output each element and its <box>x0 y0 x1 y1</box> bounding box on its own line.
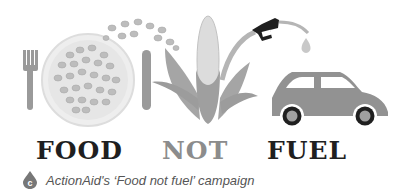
caption-badge-letter: c <box>27 178 32 188</box>
slogan-word-not: NOT <box>162 136 228 165</box>
fuel-nozzle-icon <box>222 18 308 80</box>
caption-text: ActionAid's ‘Food not fuel’ campaign <box>46 173 254 188</box>
fork-icon <box>23 50 38 110</box>
slogan-word-fuel: FUEL <box>267 136 347 165</box>
slogan-word-food: FOOD <box>36 136 123 165</box>
campaign-illustration <box>0 0 403 140</box>
slogan: FOOD NOT FUEL <box>0 136 403 166</box>
car-icon <box>272 72 388 128</box>
caption-badge-icon: c <box>22 171 38 189</box>
corn-icon <box>152 16 258 124</box>
fuel-drop-icon <box>302 38 311 53</box>
knife-icon <box>142 50 151 110</box>
caption: c ActionAid's ‘Food not fuel’ campaign <box>22 170 254 190</box>
